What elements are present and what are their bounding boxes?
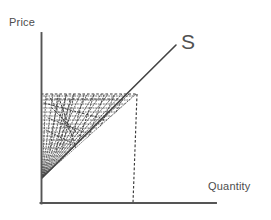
quantity-guideline [133,94,137,203]
x-axis-label: Quantity [208,180,251,192]
supply-curve [42,45,176,178]
producer-surplus-figure: Price Quantity S [0,0,271,220]
y-axis-label: Price [9,16,35,28]
supply-curve-label: S [181,30,195,54]
